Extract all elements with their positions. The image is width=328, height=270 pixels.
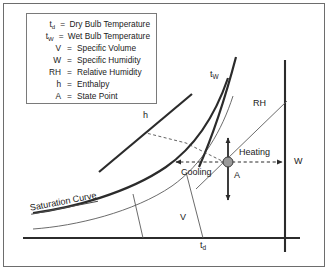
legend-symbol: V <box>27 43 65 53</box>
legend-equals: = <box>59 19 66 29</box>
relative-humidity-label: RH <box>253 99 266 108</box>
enthalpy-projection-line <box>146 133 226 163</box>
legend-equals: = <box>65 79 74 89</box>
legend-symbol: td <box>27 19 59 29</box>
specific-humidity-label: W <box>294 157 303 166</box>
legend-item-specific-humidity: W = Specific Humidity <box>27 55 150 67</box>
legend-equals: = <box>65 55 74 65</box>
dry-bulb-label: td <box>200 241 206 250</box>
state-point-marker <box>223 157 233 167</box>
legend-equals: = <box>65 67 74 77</box>
enthalpy-label: h <box>143 111 148 120</box>
psychrometric-chart-figure: td = Dry Bulb Temperature tW = Wet Bulb … <box>0 0 328 270</box>
legend-symbol: tW <box>27 31 58 41</box>
legend-meaning: Dry Bulb Temperature <box>66 19 150 29</box>
legend-equals: = <box>65 43 74 53</box>
legend-meaning: Wet Bulb Temperature <box>65 31 150 41</box>
legend-symbol: h <box>27 79 65 89</box>
legend-meaning: Specific Humidity <box>74 55 141 65</box>
legend-meaning: Specific Volume <box>74 43 136 53</box>
legend-symbol: A <box>27 91 65 101</box>
specific-volume-line-1 <box>133 194 143 238</box>
legend-item-dry-bulb: td = Dry Bulb Temperature <box>27 19 150 31</box>
legend-symbol: W <box>27 55 65 65</box>
state-point-label: A <box>234 171 240 180</box>
legend-item-enthalpy: h = Enthalpy <box>27 79 150 91</box>
legend-item-wet-bulb: tW = Wet Bulb Temperature <box>27 31 150 43</box>
heating-label: Heating <box>239 148 270 157</box>
cooling-label: Cooling <box>181 168 212 177</box>
relative-humidity-curve <box>33 96 233 229</box>
wet-bulb-label: tW <box>210 70 219 79</box>
enthalpy-line <box>99 94 192 172</box>
legend-item-state-point: A = State Point <box>27 91 150 103</box>
legend-equals: = <box>58 31 65 41</box>
legend-symbol: RH <box>27 67 65 77</box>
legend-meaning: Relative Humidity <box>74 67 142 77</box>
legend: td = Dry Bulb Temperature tW = Wet Bulb … <box>26 13 157 104</box>
legend-meaning: State Point <box>74 91 118 101</box>
legend-item-relative-humidity: RH = Relative Humidity <box>27 67 150 79</box>
specific-volume-line-2 <box>186 172 203 238</box>
legend-item-specific-volume: V = Specific Volume <box>27 43 150 55</box>
legend-meaning: Enthalpy <box>74 79 109 89</box>
specific-volume-label: V <box>180 213 186 222</box>
legend-equals: = <box>65 91 74 101</box>
